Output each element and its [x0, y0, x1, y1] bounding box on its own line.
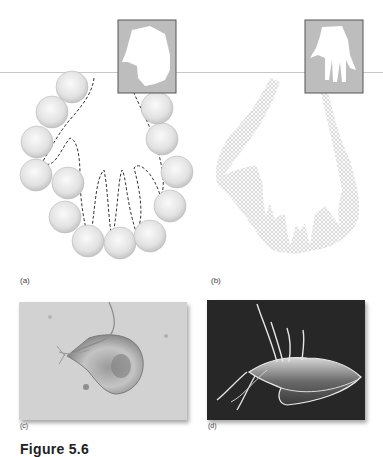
panel-label-b: (b)	[211, 276, 221, 285]
figure-caption: Figure 5.6	[20, 441, 89, 457]
caption-title: Figure 5.6	[20, 441, 89, 457]
panel-label-c: (c)	[20, 422, 28, 429]
micrograph-sem-d	[207, 300, 365, 420]
panel-label-a: (a)	[20, 276, 30, 285]
cell-spheres	[20, 71, 193, 259]
inset-a	[118, 20, 176, 93]
panel-b-illustration	[190, 0, 383, 270]
panel-label-d: (d)	[208, 422, 217, 429]
micrograph-light-c	[19, 302, 187, 420]
inset-b	[305, 20, 363, 93]
panel-a-illustration	[0, 0, 200, 270]
